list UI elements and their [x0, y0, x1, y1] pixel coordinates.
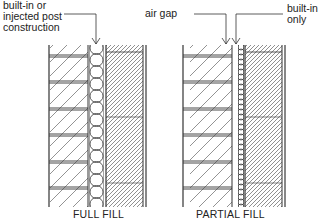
partial-cavity-insulation — [238, 44, 244, 210]
built-in-leader-arrow — [232, 14, 283, 44]
full-fill-section — [49, 14, 146, 211]
cavity-wall-diagram — [0, 0, 320, 221]
air-gap-label: air gap — [145, 8, 177, 19]
partial-air-gap — [233, 45, 238, 207]
partial-fill-section — [183, 14, 285, 210]
full-plaster-finish — [143, 45, 146, 207]
partial-inner-block-leaf — [245, 45, 282, 207]
full-fill-leader-arrow — [64, 14, 100, 44]
partial-outer-brick-leaf — [183, 45, 232, 207]
full-fill-annotation-line-3: construction — [3, 22, 60, 33]
air-gap-leader-arrow — [194, 14, 230, 44]
full-cavity-insulation — [89, 42, 104, 211]
full-fill-caption: FULL FILL — [73, 208, 124, 220]
partial-plaster-finish — [282, 45, 285, 207]
built-in-label-line-2: only — [287, 14, 306, 25]
full-outer-brick-leaf — [49, 45, 88, 207]
partial-fill-caption: PARTIAL FILL — [196, 208, 265, 220]
full-inner-block-leaf — [106, 45, 143, 207]
